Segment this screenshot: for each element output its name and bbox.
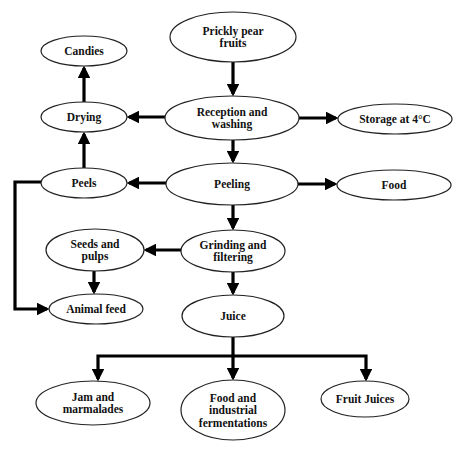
node-label: Food (382, 179, 408, 191)
node-label: Seeds and (71, 238, 120, 250)
node-label: Drying (67, 111, 102, 124)
node-food: Food (337, 170, 451, 200)
node-label: marmalades (63, 403, 124, 415)
node-label: Grinding and (200, 239, 267, 252)
node-label: pulps (82, 250, 109, 263)
node-label: Reception and (197, 106, 268, 119)
node-label: Animal feed (66, 303, 126, 315)
node-label: Jam and (72, 391, 115, 403)
node-candies: Candies (41, 36, 127, 66)
node-fruit-juices: Fruit Juices (321, 381, 409, 417)
edge-juice-to-fruit-juices (233, 356, 366, 379)
node-label: Fruit Juices (336, 393, 395, 405)
node-label: Juice (220, 310, 246, 322)
node-label: filtering (213, 251, 253, 264)
node-peels: Peels (41, 168, 127, 198)
node-food-industrial-fermentations: Food andindustrialfermentations (181, 380, 285, 440)
node-prickly-pear-fruits: Prickly pearfruits (170, 12, 296, 62)
edge-juice-to-jam-marmalades (98, 337, 233, 379)
node-drying: Drying (41, 102, 127, 132)
node-animal-feed: Animal feed (49, 294, 143, 324)
node-label: Food and (210, 392, 257, 404)
node-label: industrial (209, 404, 257, 416)
node-grinding-filtering: Grinding andfiltering (181, 230, 285, 272)
node-label: washing (212, 118, 253, 131)
node-peeling: Peeling (166, 163, 298, 205)
node-juice: Juice (182, 295, 284, 337)
node-jam-marmalades: Jam andmarmalades (36, 381, 150, 425)
node-seeds-pulps: Seeds andpulps (46, 229, 144, 271)
node-storage: Storage at 4°C (338, 104, 452, 134)
node-label: Prickly pear (203, 25, 264, 38)
node-reception-washing: Reception andwashing (165, 96, 299, 140)
node-label: Candies (64, 45, 104, 57)
node-label: fermentations (199, 417, 268, 429)
flowchart-diagram: Prickly pearfruitsCandiesDryingReception… (0, 0, 458, 449)
edge-peels-to-animal-feed (15, 182, 47, 309)
node-label: Peeling (214, 178, 250, 191)
node-label: fruits (220, 37, 247, 49)
node-label: Storage at 4°C (359, 113, 431, 126)
node-label: Peels (72, 177, 97, 189)
